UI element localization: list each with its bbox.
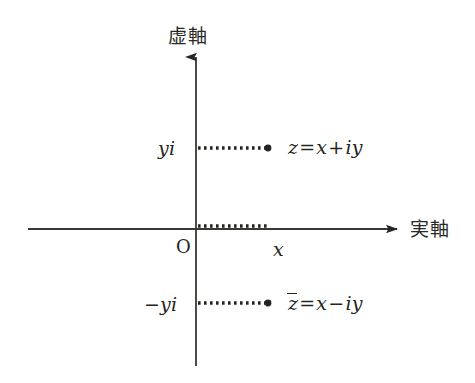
point-z-sign: + <box>327 136 345 158</box>
real-axis-label: 実軸 <box>410 220 450 239</box>
point-z-conjugate-real-part: x <box>316 292 327 314</box>
tick-label-yi: yi <box>158 139 175 158</box>
complex-plane-figure: 虚軸 実軸 O yi −yi x z=x+iy z=x−iy <box>0 0 475 383</box>
point-z-conjugate-label: z=x−iy <box>288 294 363 313</box>
tick-label-negative-yi: −yi <box>144 295 177 314</box>
point-z-conjugate-imaginary-part: iy <box>345 292 362 314</box>
tick-label-x: x <box>273 240 284 259</box>
figure-canvas <box>0 0 475 383</box>
origin-label: O <box>176 238 191 256</box>
point-z-equals: = <box>298 136 316 158</box>
overbar-group: z <box>288 294 298 313</box>
point-z-conjugate-equals: = <box>298 292 316 314</box>
point-z-real-part: x <box>316 136 327 158</box>
point-z-conjugate-lhs: z <box>288 292 298 314</box>
point-z-conjugate-sign: − <box>327 292 345 314</box>
point-z-dot <box>265 145 272 152</box>
point-z-conjugate-dot <box>265 300 272 307</box>
imaginary-axis-label: 虚軸 <box>168 27 208 46</box>
overbar-icon <box>287 293 297 294</box>
point-z-lhs: z <box>288 136 298 158</box>
point-z-imaginary-part: iy <box>345 136 362 158</box>
point-z-label: z=x+iy <box>288 138 363 157</box>
